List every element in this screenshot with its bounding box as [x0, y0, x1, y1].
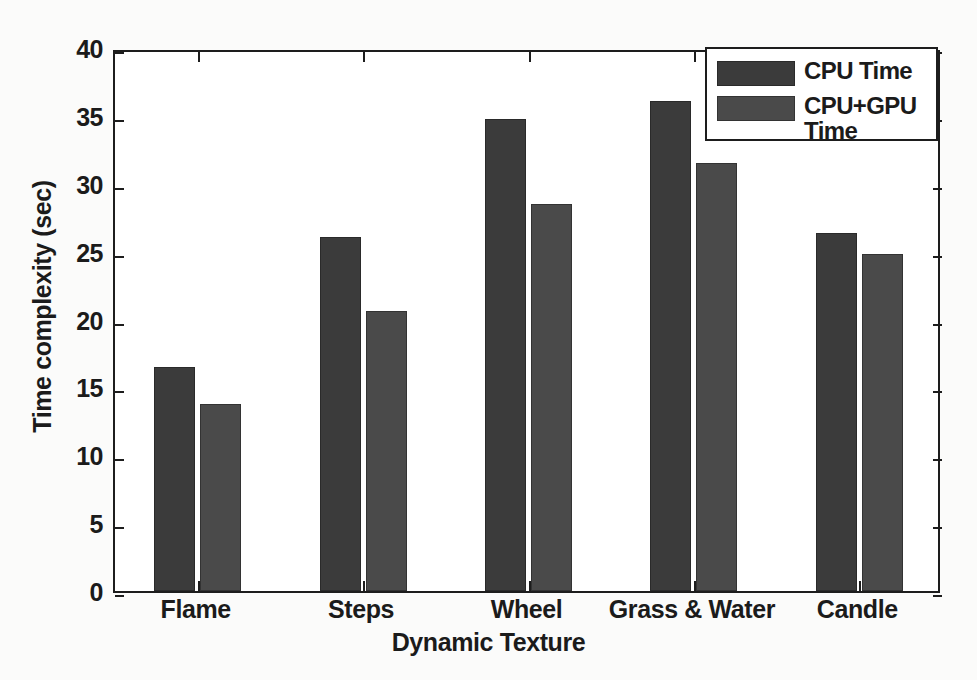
y-axis-tick-label: 40 — [51, 37, 103, 62]
x-axis-category-label: Candle — [817, 597, 898, 622]
y-axis-tick-label: 15 — [51, 376, 103, 401]
bar-cpu-gpu-time[interactable] — [531, 204, 572, 591]
bar-cpu-time[interactable] — [485, 119, 526, 591]
y-axis-tick — [115, 391, 124, 393]
bar-cpu-time[interactable] — [816, 233, 857, 591]
x-axis-tick-top — [363, 52, 365, 62]
x-axis-tick-bottom — [694, 581, 696, 591]
x-axis-category-label: Wheel — [491, 597, 563, 622]
x-axis-tick-bottom — [529, 581, 531, 591]
bar-group — [485, 52, 572, 591]
y-axis-tick-right — [933, 256, 942, 258]
x-axis-category-label: Flame — [161, 597, 231, 622]
y-axis-tick — [115, 459, 124, 461]
bar-cpu-time[interactable] — [650, 101, 691, 591]
bar-group — [154, 52, 241, 591]
legend-label: CPU Time — [804, 58, 912, 83]
y-axis-tick-label: 30 — [51, 173, 103, 198]
bar-cpu-gpu-time[interactable] — [366, 311, 407, 591]
y-axis-tick — [115, 256, 124, 258]
y-axis-tick — [115, 52, 124, 54]
x-axis-category-label: Steps — [328, 597, 394, 622]
x-axis-tick-bottom — [363, 581, 365, 591]
y-axis-tick — [115, 595, 124, 597]
y-axis-tick-right — [933, 527, 942, 529]
bar-cpu-time[interactable] — [320, 237, 361, 591]
y-axis-tick — [115, 120, 124, 122]
y-axis-tick — [115, 324, 124, 326]
chart-legend: CPU TimeCPU+GPU Time — [705, 47, 938, 141]
y-axis-tick-label: 10 — [51, 444, 103, 469]
x-axis-tick-top — [198, 52, 200, 62]
legend-swatch-cpugpu — [717, 96, 795, 121]
y-axis-tick-right — [933, 459, 942, 461]
bar-cpu-gpu-time[interactable] — [862, 254, 903, 591]
bar-cpu-time[interactable] — [154, 367, 195, 591]
y-axis-tick-right — [933, 324, 942, 326]
bar-cpu-gpu-time[interactable] — [696, 163, 737, 591]
y-axis-tick — [115, 527, 124, 529]
y-axis-tick-label: 5 — [51, 512, 103, 537]
y-axis-tick-right — [933, 391, 942, 393]
legend-item[interactable]: CPU+GPU Time — [717, 93, 917, 144]
x-axis-title: Dynamic Texture — [0, 628, 977, 657]
bar-group — [320, 52, 407, 591]
x-axis-tick-top — [694, 52, 696, 62]
y-axis-tick-right — [933, 595, 942, 597]
y-axis-tick-label: 25 — [51, 241, 103, 266]
figure-canvas: Time complexity (sec) Dynamic Texture CP… — [0, 0, 977, 680]
y-axis-tick — [115, 188, 124, 190]
y-axis-tick-label: 20 — [51, 309, 103, 334]
legend-item[interactable]: CPU Time — [717, 58, 912, 86]
x-axis-tick-top — [529, 52, 531, 62]
legend-swatch-cpu — [717, 61, 795, 86]
bar-cpu-gpu-time[interactable] — [200, 404, 241, 591]
x-axis-tick-bottom — [198, 581, 200, 591]
legend-label: CPU+GPU Time — [804, 93, 917, 144]
y-axis-tick-label: 0 — [51, 580, 103, 605]
y-axis-tick-label: 35 — [51, 105, 103, 130]
y-axis-tick-right — [933, 188, 942, 190]
x-axis-tick-bottom — [859, 581, 861, 591]
x-axis-category-label: Grass & Water — [609, 597, 775, 622]
